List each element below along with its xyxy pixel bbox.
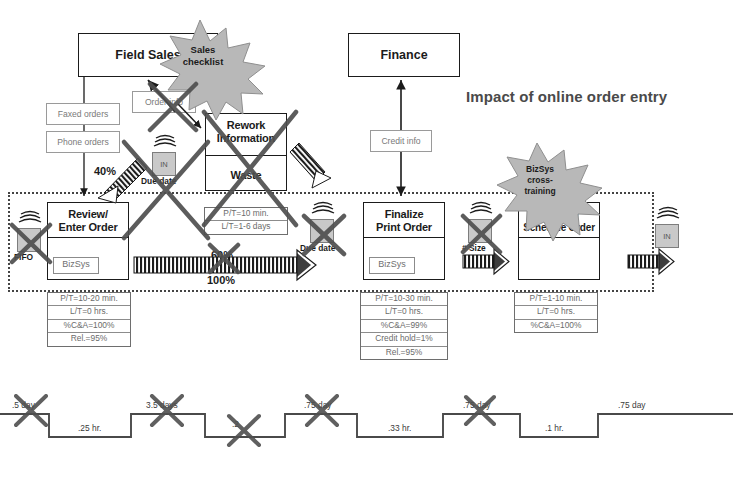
timeline-sawtooth bbox=[0, 414, 733, 437]
info-box-order-info-label: Order info bbox=[145, 97, 183, 107]
data-row: L/T=1-6 days bbox=[205, 221, 287, 233]
department-finance[interactable]: Finance bbox=[348, 33, 460, 77]
inventory-icon-in-final: IN bbox=[655, 224, 679, 248]
data-row: P/T=10-20 min. bbox=[48, 293, 130, 306]
data-row: P/T=1-10 min. bbox=[515, 293, 597, 306]
data-row: Rel.=95% bbox=[48, 333, 130, 345]
data-row: %C&A=100% bbox=[515, 320, 597, 332]
process-review-enter-order-system: BizSys bbox=[53, 257, 99, 274]
inventory-label-due-date-2: Due date bbox=[300, 243, 335, 253]
inventory-label-fifo: FIFO bbox=[14, 252, 33, 262]
flow-percentage-40: 40% bbox=[94, 165, 116, 177]
data-row: Rel.=95% bbox=[361, 347, 447, 359]
kaizen-burst-bizsys-line2: cross- bbox=[527, 175, 553, 185]
data-box-finalize-print-order: P/T=10-30 min. L/T=0 hrs. %C&A=99% Credi… bbox=[360, 292, 448, 360]
process-rework-information-title: Rework Information bbox=[206, 114, 286, 145]
info-box-phone-orders[interactable]: Phone orders bbox=[46, 131, 120, 153]
data-row: %C&A=99% bbox=[361, 320, 447, 333]
inventory-icon-fifo bbox=[17, 228, 41, 252]
process-waste-label: Waste bbox=[206, 164, 286, 182]
info-box-order-info[interactable]: Order info bbox=[132, 91, 196, 113]
process-review-schedule-order[interactable]: Review/ Schedule Order bbox=[518, 202, 600, 280]
process-review-schedule-order-title: Review/ Schedule Order bbox=[519, 203, 599, 234]
info-box-faxed-orders-label: Faxed orders bbox=[58, 109, 109, 119]
kaizen-burst-bizsys-line1: BizSys bbox=[526, 164, 554, 174]
data-box-rework-information: P/T=10 min. L/T=1-6 days bbox=[204, 207, 288, 235]
info-box-credit-info[interactable]: Credit info bbox=[370, 130, 432, 152]
timeline-leadtime-label-3: .2 bbox=[232, 419, 239, 429]
info-box-phone-orders-label: Phone orders bbox=[57, 137, 109, 147]
process-finalize-print-order-title: Finalize Print Order bbox=[364, 203, 444, 234]
data-row: Credit hold=1% bbox=[361, 333, 447, 346]
inventory-label-batch-size: # Size bbox=[462, 243, 486, 253]
process-review-enter-order-title: Review/ Enter Order bbox=[48, 203, 128, 234]
page-title: Impact of online order entry bbox=[466, 88, 667, 105]
department-finance-label: Finance bbox=[380, 48, 427, 62]
department-field-sales[interactable]: Field Sales bbox=[78, 33, 218, 77]
data-row: L/T=0 hrs. bbox=[48, 306, 130, 319]
timeline-leadtime-label-5: .75 day bbox=[463, 400, 490, 410]
timeline-processtime-label-2: .33 hr. bbox=[388, 423, 411, 433]
data-row: %C&A=100% bbox=[48, 320, 130, 333]
timeline-leadtime-label-4: .75 day bbox=[304, 400, 331, 410]
inventory-label-due-date-1: Due date bbox=[141, 176, 176, 186]
value-stream-map-canvas: Field Sales Finance Impact of online ord… bbox=[0, 0, 733, 480]
process-finalize-print-order[interactable]: Finalize Print Order BizSys bbox=[363, 202, 445, 280]
timeline-processtime-label-1: .25 hr. bbox=[78, 423, 101, 433]
inventory-icon-batch-size bbox=[468, 219, 492, 243]
data-row: L/T=0 hrs. bbox=[515, 306, 597, 319]
push-arrow-from-rework bbox=[290, 143, 331, 188]
timeline-processtime-label-3: .1 hr. bbox=[545, 423, 564, 433]
flow-percentage-100: 100% bbox=[207, 274, 235, 286]
data-box-review-schedule-order: P/T=1-10 min. L/T=0 hrs. %C&A=100% bbox=[514, 292, 598, 333]
flow-percentage-60: 60% bbox=[211, 249, 233, 261]
data-row: P/T=10 min. bbox=[205, 208, 287, 221]
process-finalize-print-order-system: BizSys bbox=[369, 257, 415, 274]
data-row: P/T=10-30 min. bbox=[361, 293, 447, 306]
data-row: L/T=0 hrs. bbox=[361, 306, 447, 319]
process-rework-information-waste[interactable]: Rework Information Waste bbox=[205, 113, 287, 191]
timeline-leadtime-label-6: .75 day bbox=[618, 400, 645, 410]
department-field-sales-label: Field Sales bbox=[115, 48, 180, 62]
data-box-review-enter-order: P/T=10-20 min. L/T=0 hrs. %C&A=100% Rel.… bbox=[47, 292, 131, 347]
process-review-enter-order[interactable]: Review/ Enter Order BizSys bbox=[47, 202, 129, 280]
timeline-leadtime-label-2: 3.5 days bbox=[146, 400, 178, 410]
timeline-leadtime-label-1: .5 day bbox=[12, 400, 35, 410]
inventory-icon-due-date-2 bbox=[310, 219, 334, 243]
info-box-credit-info-label: Credit info bbox=[381, 136, 420, 146]
info-box-faxed-orders[interactable]: Faxed orders bbox=[46, 103, 120, 125]
inventory-icon-due-date-1: IN bbox=[152, 152, 176, 176]
